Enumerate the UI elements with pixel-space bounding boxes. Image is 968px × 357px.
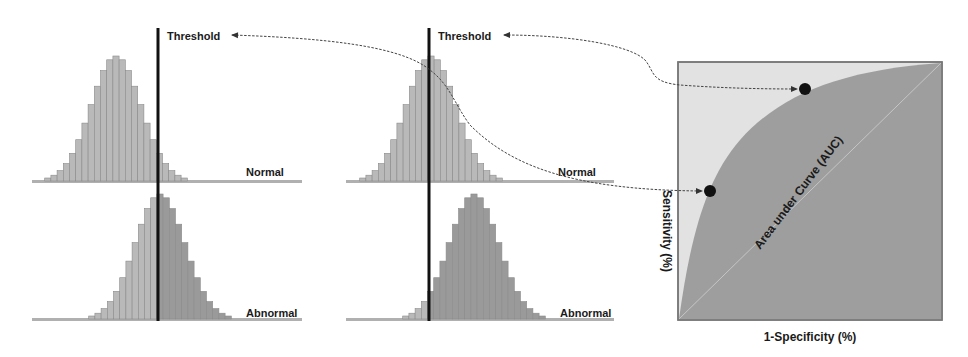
normal-histogram-bar bbox=[70, 153, 76, 181]
abnormal-histogram-bar bbox=[101, 309, 107, 319]
normal-histogram-bar bbox=[409, 86, 415, 181]
histograms bbox=[32, 28, 614, 321]
abnormal-histogram-bar bbox=[163, 198, 169, 319]
abnormal-histogram-bar bbox=[219, 313, 225, 319]
normal-histogram-bar bbox=[45, 178, 51, 181]
abnormal-histogram-bar bbox=[446, 243, 452, 319]
normal-histogram-bar bbox=[471, 153, 477, 181]
normal-histogram-bar bbox=[397, 123, 403, 181]
threshold-label-left: Threshold bbox=[167, 30, 220, 42]
abnormal-histogram-bar bbox=[459, 209, 465, 320]
abnormal-histogram-bar bbox=[502, 261, 508, 319]
normal-histogram-bar bbox=[82, 123, 88, 181]
roc-diagram: Threshold Normal Abnormal Threshold Norm… bbox=[0, 0, 968, 357]
normal-histogram-bar bbox=[138, 105, 144, 181]
normal-histogram-bar bbox=[490, 175, 496, 181]
abnormal-histogram-bar bbox=[120, 278, 126, 319]
normal-histogram-bar bbox=[125, 71, 131, 182]
normal-histogram-bar bbox=[88, 105, 94, 181]
abnormal-histogram-bar bbox=[176, 224, 182, 319]
normal-histogram-bar bbox=[385, 153, 391, 181]
abnormal-histogram-bar bbox=[539, 316, 545, 319]
normal-histogram-bar bbox=[478, 164, 484, 182]
normal-label-left: Normal bbox=[246, 166, 284, 178]
normal-histogram-bar bbox=[150, 140, 156, 181]
normal-histogram-bar bbox=[403, 105, 409, 181]
normal-histogram-bar bbox=[484, 171, 490, 181]
abnormal-histogram-bar bbox=[213, 309, 219, 319]
normal-histogram-bar bbox=[459, 123, 465, 181]
normal-histogram-bar bbox=[434, 60, 440, 181]
abnormal-histogram-bar bbox=[89, 316, 95, 319]
abnormal-histogram-bar bbox=[132, 243, 138, 319]
normal-histogram-bar bbox=[465, 140, 471, 181]
normal-histogram-bar bbox=[57, 171, 63, 181]
abnormal-histogram-bar bbox=[440, 261, 446, 319]
normal-histogram-bar bbox=[76, 140, 82, 181]
abnormal-label-middle: Abnormal bbox=[560, 307, 611, 319]
abnormal-histogram-bar bbox=[508, 278, 514, 319]
abnormal-histogram-bar bbox=[151, 198, 157, 319]
threshold-label-middle: Threshold bbox=[438, 30, 491, 42]
roc-plot: Area under Curve (AUC) Sensitivity (%) 1… bbox=[660, 62, 942, 344]
abnormal-histogram-bar bbox=[496, 243, 502, 319]
normal-histogram-bar bbox=[391, 140, 397, 181]
normal-histogram-bar bbox=[101, 71, 107, 182]
normal-histogram-bar bbox=[63, 164, 69, 182]
abnormal-histogram-bar bbox=[188, 261, 194, 319]
normal-histogram-bar bbox=[360, 178, 366, 181]
abnormal-histogram-bar bbox=[126, 261, 132, 319]
abnormal-histogram-bar bbox=[95, 313, 101, 319]
normal-histogram-bar bbox=[416, 71, 422, 182]
abnormal-histogram-bar bbox=[225, 316, 231, 319]
abnormal-histogram-bar bbox=[114, 291, 120, 319]
normal-histogram-bar bbox=[107, 60, 113, 181]
normal-histogram-bar bbox=[366, 175, 372, 181]
normal-histogram-bar bbox=[169, 171, 175, 181]
y-axis-label: Sensitivity (%) bbox=[660, 190, 674, 272]
normal-histogram-bar bbox=[422, 60, 428, 181]
normal-histogram-bar bbox=[453, 105, 459, 181]
normal-histogram-bar bbox=[378, 164, 384, 182]
abnormal-histogram-bar bbox=[452, 224, 458, 319]
normal-histogram-bar bbox=[440, 71, 446, 182]
roc-point-low-threshold bbox=[704, 185, 716, 197]
abnormal-histogram-bar bbox=[477, 198, 483, 319]
abnormal-histogram-bar bbox=[415, 309, 421, 319]
normal-histogram-bar bbox=[144, 123, 150, 181]
diagram-canvas: Threshold Normal Abnormal Threshold Norm… bbox=[0, 0, 968, 357]
abnormal-histogram-bar bbox=[207, 302, 213, 320]
normal-histogram-bar bbox=[447, 86, 453, 181]
normal-histogram-bar bbox=[119, 60, 125, 181]
abnormal-histogram-bar bbox=[471, 194, 477, 319]
normal-histogram-bar bbox=[113, 56, 119, 181]
abnormal-histogram-bar bbox=[421, 302, 427, 320]
abnormal-histogram-bar bbox=[138, 224, 144, 319]
normal-histogram-bar bbox=[181, 178, 187, 181]
normal-histogram-bar bbox=[496, 178, 502, 181]
abnormal-histogram-bar bbox=[194, 278, 200, 319]
abnormal-histogram-bar bbox=[521, 302, 527, 320]
normal-histogram-bar bbox=[372, 171, 378, 181]
abnormal-histogram-bar bbox=[145, 209, 151, 320]
abnormal-histogram-bar bbox=[527, 309, 533, 319]
abnormal-histogram-bar bbox=[403, 316, 409, 319]
abnormal-histogram-bar bbox=[434, 278, 440, 319]
normal-histogram-bar bbox=[94, 86, 100, 181]
abnormal-label-left: Abnormal bbox=[246, 307, 297, 319]
abnormal-histogram-bar bbox=[514, 291, 520, 319]
abnormal-histogram-bar bbox=[533, 313, 539, 319]
abnormal-histogram-bar bbox=[107, 302, 113, 320]
normal-histogram-bar bbox=[51, 175, 57, 181]
abnormal-histogram-bar bbox=[200, 291, 206, 319]
roc-point-high-threshold bbox=[799, 83, 811, 95]
abnormal-histogram-bar bbox=[465, 198, 471, 319]
normal-histogram-bar bbox=[132, 86, 138, 181]
normal-label-middle: Normal bbox=[558, 166, 596, 178]
abnormal-histogram-bar bbox=[483, 209, 489, 320]
normal-histogram-bar bbox=[163, 164, 169, 182]
abnormal-histogram-bar bbox=[409, 313, 415, 319]
abnormal-histogram-bar bbox=[169, 209, 175, 320]
normal-histogram-bar bbox=[175, 175, 181, 181]
abnormal-histogram-bar bbox=[490, 224, 496, 319]
